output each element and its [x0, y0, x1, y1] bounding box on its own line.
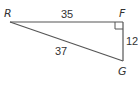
vertex-label-f: F [119, 7, 126, 20]
side-label-fg: 12 [126, 35, 138, 47]
right-angle-marker-icon [115, 22, 123, 29]
triangle-diagram: R F G 35 12 37 [0, 0, 138, 89]
vertex-label-g: G [118, 65, 127, 78]
side-label-rg: 37 [55, 45, 67, 57]
vertex-label-r: R [4, 7, 12, 20]
side-label-rf: 35 [61, 8, 73, 20]
